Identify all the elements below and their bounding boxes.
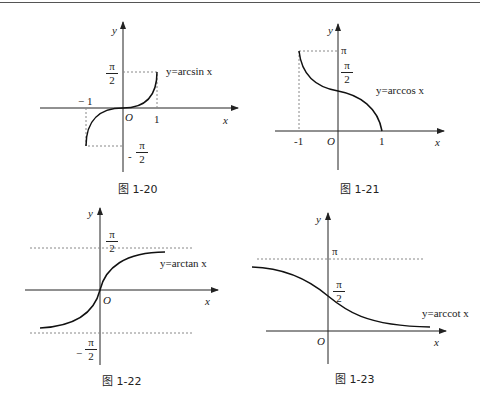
- fig-1-22-origin: O: [103, 295, 111, 306]
- fig-1-21-tick-pi-half: π2: [341, 60, 353, 85]
- fig-1-20-y-axis-label: y: [112, 25, 117, 36]
- fig-1-21-tick-pi: π: [341, 45, 347, 56]
- fig-1-22-func-label: y=arctan x: [160, 258, 207, 269]
- fig-1-20-tick-neg-pi-half: π2: [136, 140, 148, 165]
- fig-1-20-origin: O: [125, 112, 133, 123]
- fig-1-22-caption: 图 1-22: [102, 372, 141, 388]
- fig-1-22-tick-pi-half: π2: [106, 229, 118, 254]
- fig-1-22-y-axis-label: y: [88, 208, 93, 219]
- graphs-canvas: [0, 0, 498, 408]
- fig-1-21-caption: 图 1-21: [340, 180, 379, 196]
- fig-1-20-func-label: y=arcsin x: [166, 66, 212, 77]
- fig-1-22-tick-neg-pi-half: π2: [85, 337, 97, 362]
- fig-1-23-origin: O: [317, 336, 325, 347]
- page: y x O − 1 1 π2 - π2 y=arcsin x 图 1-20 y …: [0, 0, 498, 408]
- fig-1-23-func-label: y=arccot x: [422, 308, 469, 319]
- fig-1-23-tick-pi-half: π2: [333, 279, 345, 304]
- fig-1-23-tick-pi: π: [332, 246, 338, 257]
- fig-1-21-x-axis-label: x: [435, 137, 440, 148]
- fig-1-21-y-axis-label: y: [328, 25, 333, 36]
- fig-1-20-x-axis-label: x: [223, 115, 228, 126]
- fig-1-20-neg-sign: -: [128, 151, 132, 162]
- fig-1-23-caption: 图 1-23: [335, 370, 374, 386]
- fig-1-20-tick-1: 1: [154, 114, 160, 125]
- fig-1-22-neg-sign: −: [76, 348, 82, 359]
- fig-1-23-x-axis-label: x: [434, 337, 439, 348]
- fig-1-22-plot: [25, 208, 218, 365]
- fig-1-23-y-axis-label: y: [316, 214, 321, 225]
- fig-1-20-tick-neg1: − 1: [78, 96, 92, 107]
- fig-1-23-plot: [252, 213, 446, 364]
- fig-1-20-tick-pi-half: π2: [106, 61, 118, 86]
- fig-1-20-caption: 图 1-20: [118, 180, 157, 196]
- fig-1-21-tick-1: 1: [379, 136, 385, 147]
- fig-1-21-origin: O: [327, 136, 335, 147]
- fig-1-21-plot: [275, 24, 444, 170]
- fig-1-21-func-label: y=arccos x: [376, 85, 424, 96]
- fig-1-21-tick-neg1: -1: [294, 136, 303, 147]
- fig-1-22-x-axis-label: x: [205, 296, 210, 307]
